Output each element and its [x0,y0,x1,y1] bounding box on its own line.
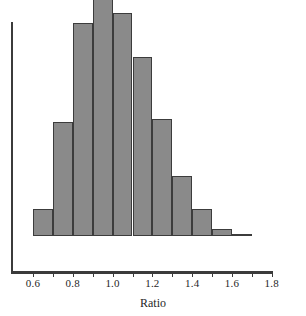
x-axis-tick-label: 1.0 [98,277,128,290]
bar-series [0,0,306,280]
histogram-bar [113,13,133,236]
x-axis-tick-label: 1.4 [177,277,207,290]
histogram-bar [133,57,153,236]
x-axis-tick-label: 1.8 [257,277,287,290]
x-axis-tick-label: 1.6 [217,277,247,290]
x-axis-tick [172,272,173,277]
plot-area: 0.60.81.01.21.41.61.8 [0,0,306,280]
histogram-bar [192,209,212,236]
x-axis-tick [53,272,54,277]
histogram-bar [93,0,113,236]
x-axis-tick [252,272,253,277]
x-axis-title: Ratio [0,296,306,310]
x-axis-tick-label: 0.8 [58,277,88,290]
x-axis-tick-label: 1.2 [137,277,167,290]
x-axis-tick [133,272,134,277]
histogram-bar [53,122,73,236]
histogram-bar [73,23,93,236]
histogram-bar [172,176,192,236]
histogram-bar [152,119,172,236]
histogram-bar [33,209,53,236]
x-axis-tick-label: 0.6 [18,277,48,290]
histogram-figure: 0.60.81.01.21.41.61.8 Ratio [0,0,306,316]
x-axis-tick [212,272,213,277]
histogram-bar [212,229,232,236]
x-axis-tick [93,272,94,277]
histogram-bar [232,234,252,236]
